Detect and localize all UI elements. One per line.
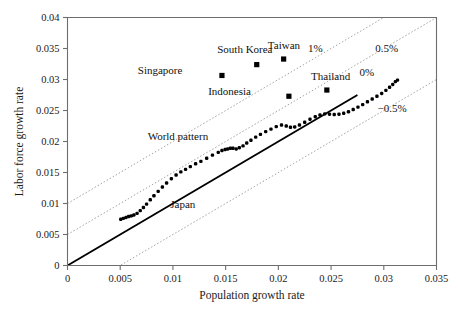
scatter-point xyxy=(303,121,306,124)
scatter-point xyxy=(384,89,387,92)
scatter-point xyxy=(217,151,220,154)
scatter-point xyxy=(238,146,241,149)
y-tick-label: 0.01 xyxy=(41,198,59,209)
x-tick-label: 0.02 xyxy=(269,273,287,284)
scatter-point xyxy=(165,181,168,184)
scatter-point xyxy=(259,133,262,136)
reference-line-0pct xyxy=(68,95,358,266)
x-tick-label: 0.01 xyxy=(164,273,182,284)
scatter-point xyxy=(352,108,355,111)
scatter-point xyxy=(132,213,135,216)
scatter-point xyxy=(254,135,257,138)
scatter-point xyxy=(205,157,208,160)
scatter-point xyxy=(269,127,272,130)
country-marker xyxy=(286,94,291,99)
scatter-point xyxy=(184,168,187,171)
x-tick-label: 0.025 xyxy=(319,273,343,284)
country-marker xyxy=(281,56,286,61)
x-tick-label: 0.015 xyxy=(214,273,238,284)
scatter-point xyxy=(211,153,214,156)
country-label: South Korea xyxy=(217,43,272,55)
y-tick-label: 0.005 xyxy=(36,229,60,240)
scatter-point xyxy=(161,185,164,188)
country-label: Indonesia xyxy=(208,85,251,97)
scatter-point xyxy=(323,112,326,115)
scatter-point xyxy=(361,103,364,106)
scatter-point xyxy=(139,209,142,212)
country-label: Singapore xyxy=(138,64,183,76)
scatter-point xyxy=(189,165,192,168)
scatter-point xyxy=(231,147,234,150)
scatter-point xyxy=(170,177,173,180)
x-axis-title: Population growth rate xyxy=(199,289,304,302)
scatter-point xyxy=(249,139,252,142)
scatter-point xyxy=(333,113,336,116)
scatter-point xyxy=(285,124,288,127)
scatter-point xyxy=(370,97,373,100)
scatter-point xyxy=(245,141,248,144)
scatter-point xyxy=(347,110,350,113)
scatter-plot: 00.0050.010.0150.020.0250.030.03500.0050… xyxy=(0,0,458,311)
x-tick-label: 0.035 xyxy=(425,273,449,284)
scatter-point xyxy=(149,198,152,201)
scatter-point xyxy=(366,100,369,103)
scatter-points xyxy=(119,78,399,221)
country-marker xyxy=(324,87,329,92)
reference-line-label: −0.5% xyxy=(377,102,406,114)
figure-container: 00.0050.010.0150.020.0250.030.03500.0050… xyxy=(0,0,458,311)
scatter-point xyxy=(179,170,182,173)
y-tick-label: 0.025 xyxy=(36,105,60,116)
annotation-label: Japan xyxy=(170,198,196,210)
scatter-point xyxy=(241,144,244,147)
reference-line-label: 0% xyxy=(360,66,375,78)
y-axis-title: Labor force growth rate xyxy=(13,87,26,197)
data-labels: 1%0.5%0%−0.5%South KoreaTaiwanSingaporeI… xyxy=(138,39,407,210)
country-label: Taiwan xyxy=(268,39,301,51)
scatter-point xyxy=(220,149,223,152)
scatter-point xyxy=(142,206,145,209)
scatter-point xyxy=(264,130,267,133)
scatter-point xyxy=(293,125,296,128)
scatter-point xyxy=(298,123,301,126)
y-tick-label: 0.04 xyxy=(41,12,60,23)
scatter-point xyxy=(308,117,311,120)
scatter-point xyxy=(396,78,399,81)
scatter-point xyxy=(342,112,345,115)
scatter-point xyxy=(145,202,148,205)
annotation-label: World pattern xyxy=(148,130,209,142)
scatter-point xyxy=(388,86,391,89)
scatter-point xyxy=(194,162,197,165)
x-tick-label: 0.03 xyxy=(375,273,393,284)
scatter-point xyxy=(275,125,278,128)
y-tick-label: 0.015 xyxy=(36,167,60,178)
scatter-point xyxy=(152,194,155,197)
scatter-point xyxy=(234,147,237,150)
y-tick-label: 0 xyxy=(54,260,59,271)
scatter-point xyxy=(314,115,317,118)
reference-line-label: 0.5% xyxy=(375,42,398,54)
scatter-point xyxy=(174,173,177,176)
reference-line-label: 1% xyxy=(308,42,323,54)
scatter-point xyxy=(318,113,321,116)
x-tick-label: 0.005 xyxy=(108,273,132,284)
scatter-point xyxy=(199,160,202,163)
scatter-point xyxy=(356,105,359,108)
x-tick-label: 0 xyxy=(65,273,70,284)
scatter-point xyxy=(375,95,378,98)
y-tick-label: 0.03 xyxy=(41,74,59,85)
country-marker xyxy=(254,62,259,67)
scatter-point xyxy=(156,190,159,193)
y-tick-label: 0.035 xyxy=(36,43,60,54)
country-marker xyxy=(219,73,224,78)
scatter-point xyxy=(337,113,340,116)
scatter-point xyxy=(280,123,283,126)
scatter-point xyxy=(380,92,383,95)
y-tick-label: 0.02 xyxy=(41,136,59,147)
scatter-point xyxy=(328,113,331,116)
scatter-point xyxy=(289,126,292,129)
scatter-point xyxy=(135,212,138,215)
country-label: Thailand xyxy=(311,70,351,82)
scatter-point xyxy=(391,83,394,86)
